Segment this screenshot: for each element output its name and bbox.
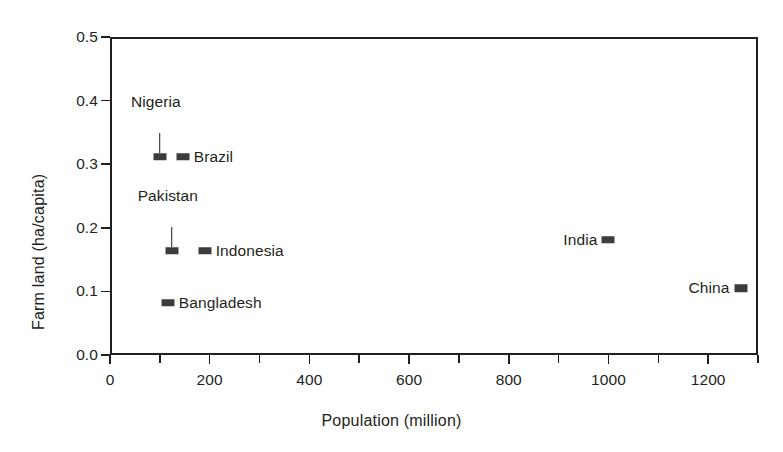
- y-axis-tick-label: 0.1: [52, 282, 98, 300]
- data-point-label: Nigeria: [131, 93, 181, 111]
- data-point-marker[interactable]: [602, 236, 615, 244]
- y-axis-title: Farm land (ha/capita): [30, 174, 48, 330]
- y-axis-tick: [101, 163, 110, 165]
- y-axis-tick: [101, 100, 110, 102]
- y-axis-tick-label: 0.3: [52, 155, 98, 173]
- x-axis-tick-label: 1000: [591, 371, 626, 389]
- x-axis-tick: [658, 355, 660, 363]
- x-axis-tick-label: 600: [396, 371, 422, 389]
- x-axis-tick: [608, 355, 610, 364]
- x-axis-tick: [109, 355, 111, 364]
- y-axis-tick-label: 0.5: [52, 28, 98, 46]
- x-axis-tick: [209, 355, 211, 364]
- x-axis-tick-label: 400: [296, 371, 322, 389]
- x-axis-tick: [508, 355, 510, 364]
- data-point-marker[interactable]: [153, 153, 166, 161]
- x-axis-tick-label: 1200: [691, 371, 726, 389]
- data-point-label: Brazil: [194, 148, 233, 166]
- y-axis-tick-label: 0.0: [52, 346, 98, 364]
- data-point-marker[interactable]: [734, 284, 747, 292]
- x-axis-tick: [309, 355, 311, 364]
- farm-land-population-scatter-chart: 0200400600800100012000.00.10.20.30.40.5 …: [0, 0, 783, 452]
- y-axis-tick: [101, 354, 110, 356]
- x-axis-tick: [259, 355, 261, 363]
- x-axis-tick-label: 200: [197, 371, 223, 389]
- x-axis-tick: [358, 355, 360, 363]
- label-leader-line: [159, 133, 161, 153]
- x-axis-tick-label: 0: [106, 371, 115, 389]
- data-point-label: India: [563, 231, 597, 249]
- x-axis-tick-label: 800: [496, 371, 522, 389]
- x-axis-tick: [159, 355, 161, 363]
- x-axis-tick: [707, 355, 709, 364]
- data-point-label: China: [689, 279, 730, 297]
- y-axis-tick: [101, 227, 110, 229]
- x-axis-tick: [458, 355, 460, 363]
- data-point-label: Pakistan: [138, 187, 198, 205]
- x-axis-tick: [408, 355, 410, 364]
- data-point-label: Indonesia: [216, 242, 284, 260]
- label-leader-line: [171, 227, 173, 247]
- data-point-marker[interactable]: [165, 247, 178, 255]
- y-axis-tick: [101, 36, 110, 38]
- data-point-label: Bangladesh: [179, 294, 262, 312]
- x-axis-title: Population (million): [0, 412, 783, 430]
- data-point-marker[interactable]: [198, 247, 211, 255]
- y-axis-tick: [101, 291, 110, 293]
- data-point-marker[interactable]: [161, 299, 174, 307]
- y-axis-tick-label: 0.4: [52, 92, 98, 110]
- data-point-marker[interactable]: [176, 153, 189, 161]
- x-axis-tick: [558, 355, 560, 363]
- y-axis-tick-label: 0.2: [52, 219, 98, 237]
- x-axis-tick: [757, 355, 759, 363]
